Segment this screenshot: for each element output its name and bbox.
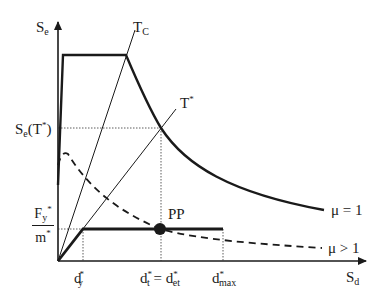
tc-label: TC [133,20,149,37]
mu-gt-1-label: μ > 1 [328,241,360,256]
fraction-bar [32,225,54,226]
pp-label: PP [168,207,185,222]
se-tstar-label: Se(T*) [15,121,51,139]
fy-over-m-label: Fy* m* [32,204,54,246]
y-axis-label: Se [36,20,49,37]
diagram-canvas [0,0,382,300]
fy-numerator: Fy* [32,204,54,223]
dt-det-label: d*t = d*et [140,270,180,288]
tstar-label: T* [180,95,194,111]
mu-eq-1-label: μ = 1 [331,203,363,218]
dy-label: d*y [74,270,83,288]
dmax-label: d*max [212,270,236,288]
tc-period-line [58,30,135,261]
x-axis-label: Sd [346,270,359,287]
performance-point [154,223,166,235]
elastic-spectrum-mu1 [58,55,324,210]
m-denominator: m* [32,228,54,246]
